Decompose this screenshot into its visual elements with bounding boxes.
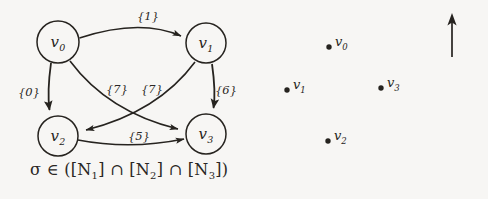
scatter-point-v3 xyxy=(378,85,383,90)
node-label-v0: v0 xyxy=(51,33,66,53)
scatter-label-v0: v0 xyxy=(335,34,348,52)
edge-v0-v2 xyxy=(49,63,51,110)
scatter-label-v3: v3 xyxy=(387,75,400,93)
scatter-label-v1: v1 xyxy=(293,77,306,95)
scatter-point-v2 xyxy=(325,138,330,143)
edge-label-v2-v3: {5} xyxy=(128,129,150,143)
caption-formula: σ ∈ ([N1] ∩ [N2] ∩ [N3]) xyxy=(30,160,228,181)
node-label-v3: v3 xyxy=(199,125,214,145)
edge-label-v0-v2: {0} xyxy=(18,85,40,99)
formula-elementof: ∈ xyxy=(47,160,59,179)
edge-v1-v2 xyxy=(86,62,195,130)
scatter-point-v1 xyxy=(284,87,289,92)
edge-label-v0-v1: {1} xyxy=(137,9,159,23)
node-label-v2: v2 xyxy=(51,127,66,147)
edge-label-v1-v3: {6} xyxy=(215,83,237,97)
node-label-v1: v1 xyxy=(199,34,214,54)
formula-sigma: σ xyxy=(30,160,41,179)
edge-label-v1-v2: {7} xyxy=(141,82,163,96)
formula-body: ([N1] ∩ [N2] ∩ [N3]) xyxy=(64,160,228,179)
graph-figure: v0 v1 v2 v3 {1} {0} {7} {7} {6} {5} v0 v… xyxy=(0,0,488,199)
scatter-label-v2: v2 xyxy=(334,128,347,146)
edge-v0-v1 xyxy=(80,27,182,38)
scatter-point-v0 xyxy=(326,44,331,49)
edge-label-v0-v3: {7} xyxy=(106,82,128,96)
